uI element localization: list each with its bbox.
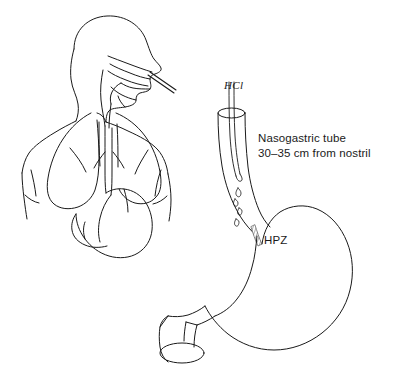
body-outline [22, 121, 171, 221]
small-stomach [72, 189, 153, 258]
nasogastric-tube-label-line1: Nasogastric tube [258, 131, 371, 146]
pharynx [101, 70, 150, 128]
nasogastric-tube-label-line2: 30–35 cm from nostril [258, 146, 371, 161]
nasogastric-tube-label: Nasogastric tube 30–35 cm from nostril [258, 131, 371, 160]
nasogastric-tube [229, 82, 242, 181]
anatomical-illustration [0, 0, 396, 378]
head-profile [71, 16, 162, 122]
esophagus [218, 108, 270, 236]
duodenum [159, 316, 204, 363]
hcl-label: HCl [224, 79, 244, 91]
hpz-label: HPZ [264, 234, 287, 246]
nasal-passage [108, 56, 152, 86]
